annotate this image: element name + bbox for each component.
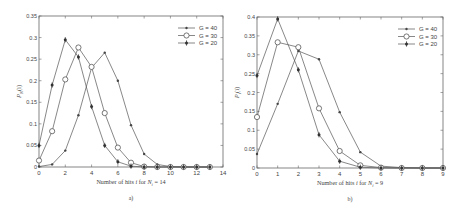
x-tick-label: 4 xyxy=(338,171,342,177)
series-g40 xyxy=(256,50,444,169)
panel-caption: b) xyxy=(348,196,353,203)
x-tick-label: 14 xyxy=(220,170,227,176)
x-tick-label: 7 xyxy=(400,171,404,177)
x-tick-label: 12 xyxy=(193,170,200,176)
legend-label: G = 20 xyxy=(419,41,438,47)
y-tick-label: 0.1 xyxy=(29,121,37,127)
legend-label: G = 20 xyxy=(199,40,218,46)
y-tick-label: 0.05 xyxy=(244,146,255,152)
chart-a-svg: 0246810121400.050.10.150.20.250.30.35G =… xyxy=(0,0,230,208)
series-g30 xyxy=(36,45,212,170)
y-tick-label: 0.15 xyxy=(244,108,255,114)
circle-marker-icon xyxy=(184,33,189,38)
dot-marker-icon xyxy=(276,103,278,105)
circle-marker-icon xyxy=(404,34,409,39)
circle-marker-icon xyxy=(254,114,259,119)
legend: G = 40G = 30G = 20 xyxy=(398,26,438,47)
series-line xyxy=(39,47,210,167)
dot-marker-icon xyxy=(38,165,40,167)
chart-panel-a: 0246810121400.050.10.150.20.250.30.35G =… xyxy=(0,0,230,208)
x-tick-label: 8 xyxy=(142,170,146,176)
dot-marker-icon xyxy=(338,111,340,113)
x-tick-label: 3 xyxy=(317,171,321,177)
x-tick-label: 4 xyxy=(90,170,94,176)
legend-label: G = 30 xyxy=(419,34,438,40)
x-tick-label: 6 xyxy=(379,171,383,177)
x-tick-label: 10 xyxy=(167,170,174,176)
circle-marker-icon xyxy=(76,45,81,50)
series-line xyxy=(257,19,443,168)
y-tick-label: 0.3 xyxy=(29,35,37,41)
dot-marker-icon xyxy=(117,80,119,82)
dot-marker-icon xyxy=(359,151,361,153)
y-tick-label: 0.35 xyxy=(26,13,37,19)
dot-marker-icon xyxy=(104,51,106,53)
dot-marker-icon xyxy=(130,124,132,126)
y-axis-label: PN(i) xyxy=(15,85,24,99)
y-tick-label: 0.25 xyxy=(26,56,37,62)
y-tick-label: 0.15 xyxy=(26,99,37,105)
x-tick-label: 8 xyxy=(421,171,425,177)
x-tick-label: 1 xyxy=(276,171,280,177)
circle-marker-icon xyxy=(115,145,120,150)
y-tick-label: 0.1 xyxy=(247,127,255,133)
y-tick-label: 0 xyxy=(252,165,255,171)
x-tick-label: 2 xyxy=(64,170,68,176)
x-tick-label: 0 xyxy=(255,171,259,177)
dot-marker-icon xyxy=(256,153,258,155)
panel-caption: a) xyxy=(129,195,134,202)
dot-marker-icon xyxy=(185,27,187,29)
y-tick-label: 0.2 xyxy=(247,90,255,96)
circle-marker-icon xyxy=(275,40,280,45)
dot-marker-icon xyxy=(405,28,407,30)
circle-marker-icon xyxy=(316,106,321,111)
y-tick-label: 0.35 xyxy=(244,33,255,39)
dot-marker-icon xyxy=(77,114,79,116)
y-tick-label: 0.4 xyxy=(247,14,255,20)
x-tick-label: 5 xyxy=(359,171,363,177)
x-tick-label: 9 xyxy=(441,171,445,177)
chart-panel-b: 012345678900.050.10.150.20.250.30.350.4G… xyxy=(230,0,461,208)
x-tick-label: 6 xyxy=(116,170,120,176)
plot-area-frame xyxy=(257,17,443,168)
y-axis-label: Pi(i) xyxy=(233,87,242,99)
dot-marker-icon xyxy=(51,163,53,165)
plot-area-frame xyxy=(39,16,223,167)
circle-marker-icon xyxy=(337,148,342,153)
series-g40 xyxy=(38,51,211,168)
circle-marker-icon xyxy=(102,110,107,115)
circle-marker-icon xyxy=(50,129,55,134)
circle-marker-icon xyxy=(89,64,94,69)
dot-marker-icon xyxy=(64,149,66,151)
series-line xyxy=(257,42,443,168)
y-tick-label: 0.2 xyxy=(29,78,37,84)
x-tick-label: 2 xyxy=(297,171,301,177)
legend-label: G = 40 xyxy=(419,26,438,32)
dot-marker-icon xyxy=(318,58,320,60)
y-tick-label: 0 xyxy=(34,164,37,170)
series-g20 xyxy=(256,16,445,170)
dot-marker-icon xyxy=(143,153,145,155)
circle-marker-icon xyxy=(63,77,68,82)
circle-marker-icon xyxy=(36,158,41,163)
x-axis-label: Number of hits i for Ni = 14 xyxy=(96,178,165,187)
series-g30 xyxy=(254,40,445,171)
legend: G = 40G = 30G = 20 xyxy=(178,25,218,46)
legend-label: G = 30 xyxy=(199,33,218,39)
y-tick-label: 0.05 xyxy=(26,142,37,148)
circle-marker-icon xyxy=(296,45,301,50)
x-axis-label: Number of hits i for Ni = 9 xyxy=(317,179,383,188)
legend-label: G = 40 xyxy=(199,25,218,31)
y-tick-label: 0.25 xyxy=(244,71,255,77)
series-line xyxy=(257,51,443,168)
x-tick-label: 0 xyxy=(37,170,41,176)
chart-b-svg: 012345678900.050.10.150.20.250.30.350.4G… xyxy=(230,0,461,208)
y-tick-label: 0.3 xyxy=(247,52,255,58)
